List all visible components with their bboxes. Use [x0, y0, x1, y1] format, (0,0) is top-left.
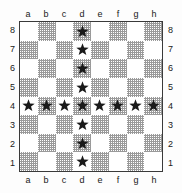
star-icon: [73, 134, 91, 153]
board-square-e8[interactable]: [91, 22, 109, 41]
file-label-bottom-f: f: [109, 174, 127, 186]
board-square-e3[interactable]: [91, 115, 109, 134]
board-square-h5[interactable]: [144, 78, 162, 97]
board-grid: [20, 22, 162, 171]
board-square-a2[interactable]: [20, 134, 38, 153]
board-square-d1[interactable]: [73, 152, 91, 171]
board-square-d6[interactable]: [73, 59, 91, 78]
board-square-e5[interactable]: [91, 78, 109, 97]
rank-label-left-7: 7: [3, 40, 17, 59]
file-label-bottom-e: e: [91, 174, 109, 186]
board-square-b5[interactable]: [38, 78, 56, 97]
file-label-top-f: f: [109, 8, 127, 20]
board-square-a8[interactable]: [20, 22, 38, 41]
rank-label-right-5: 5: [165, 78, 179, 97]
board-square-b7[interactable]: [38, 41, 56, 60]
board-square-c7[interactable]: [56, 41, 74, 60]
rank-label-left-5: 5: [3, 78, 17, 97]
board-square-f8[interactable]: [109, 22, 127, 41]
board-square-h1[interactable]: [144, 152, 162, 171]
board-square-d7[interactable]: [73, 41, 91, 60]
star-icon: [38, 97, 56, 116]
board-square-g5[interactable]: [127, 78, 145, 97]
star-icon: [20, 97, 38, 116]
rank-label-left-3: 3: [3, 115, 17, 134]
file-label-bottom-d: d: [73, 174, 91, 186]
file-label-top-e: e: [91, 8, 109, 20]
chess-diagram: abcdefgh 87654321 87654321 abcdefgh: [0, 0, 182, 193]
board-square-f2[interactable]: [109, 134, 127, 153]
board-square-g2[interactable]: [127, 134, 145, 153]
board-square-c1[interactable]: [56, 152, 74, 171]
board-square-d4[interactable]: [73, 97, 91, 116]
board-square-g3[interactable]: [127, 115, 145, 134]
rank-label-right-3: 3: [165, 115, 179, 134]
file-label-bottom-c: c: [55, 174, 73, 186]
board-square-a6[interactable]: [20, 59, 38, 78]
star-icon: [73, 41, 91, 60]
board-square-f3[interactable]: [109, 115, 127, 134]
board-square-d8[interactable]: [73, 22, 91, 41]
rank-label-right-6: 6: [165, 59, 179, 78]
board-square-c6[interactable]: [56, 59, 74, 78]
board-square-g1[interactable]: [127, 152, 145, 171]
board-square-f1[interactable]: [109, 152, 127, 171]
board-square-h7[interactable]: [144, 41, 162, 60]
board-square-c3[interactable]: [56, 115, 74, 134]
board-square-b8[interactable]: [38, 22, 56, 41]
board-square-f6[interactable]: [109, 59, 127, 78]
file-label-top-c: c: [55, 8, 73, 20]
rank-labels-left: 87654321: [3, 21, 17, 172]
board-square-a1[interactable]: [20, 152, 38, 171]
file-label-bottom-g: g: [127, 174, 145, 186]
star-icon: [73, 152, 91, 171]
rank-label-left-1: 1: [3, 153, 17, 172]
file-label-bottom-a: a: [19, 174, 37, 186]
star-icon: [73, 97, 91, 116]
file-label-top-a: a: [19, 8, 37, 20]
board-square-e4[interactable]: [91, 97, 109, 116]
board-square-e6[interactable]: [91, 59, 109, 78]
board-square-c5[interactable]: [56, 78, 74, 97]
rank-label-left-2: 2: [3, 134, 17, 153]
board-square-h8[interactable]: [144, 22, 162, 41]
star-icon: [144, 97, 162, 116]
star-icon: [73, 22, 91, 41]
board-square-a4[interactable]: [20, 97, 38, 116]
rank-label-right-4: 4: [165, 97, 179, 116]
board-square-b6[interactable]: [38, 59, 56, 78]
board-square-a7[interactable]: [20, 41, 38, 60]
board-square-c4[interactable]: [56, 97, 74, 116]
board-square-b3[interactable]: [38, 115, 56, 134]
board-square-e7[interactable]: [91, 41, 109, 60]
board-square-f5[interactable]: [109, 78, 127, 97]
star-icon: [73, 59, 91, 78]
board-square-h4[interactable]: [144, 97, 162, 116]
board-square-b1[interactable]: [38, 152, 56, 171]
board-square-b2[interactable]: [38, 134, 56, 153]
board-square-h6[interactable]: [144, 59, 162, 78]
rank-label-left-4: 4: [3, 97, 17, 116]
board-square-c2[interactable]: [56, 134, 74, 153]
star-icon: [127, 97, 145, 116]
board-square-h2[interactable]: [144, 134, 162, 153]
board-square-g7[interactable]: [127, 41, 145, 60]
board-square-h3[interactable]: [144, 115, 162, 134]
star-icon: [73, 115, 91, 134]
board-square-d2[interactable]: [73, 134, 91, 153]
board-square-a5[interactable]: [20, 78, 38, 97]
board-square-b4[interactable]: [38, 97, 56, 116]
board-square-e1[interactable]: [91, 152, 109, 171]
board-square-g4[interactable]: [127, 97, 145, 116]
board-square-d5[interactable]: [73, 78, 91, 97]
board-square-a3[interactable]: [20, 115, 38, 134]
board-square-f4[interactable]: [109, 97, 127, 116]
board-square-g8[interactable]: [127, 22, 145, 41]
board-square-d3[interactable]: [73, 115, 91, 134]
file-label-top-h: h: [145, 8, 163, 20]
board-square-g6[interactable]: [127, 59, 145, 78]
board-square-f7[interactable]: [109, 41, 127, 60]
board-square-e2[interactable]: [91, 134, 109, 153]
board-square-c8[interactable]: [56, 22, 74, 41]
rank-labels-right: 87654321: [165, 21, 179, 172]
